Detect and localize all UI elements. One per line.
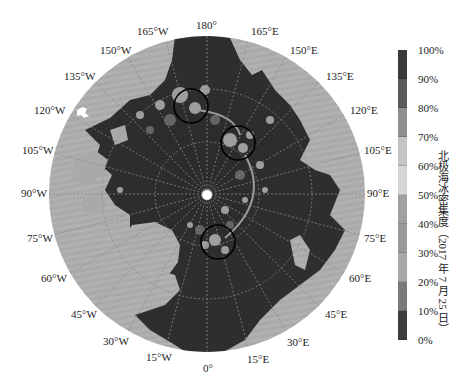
colorbar-segment	[398, 50, 407, 79]
colorbar-title: 北极海冰密集度（2017 年 7 月 25 日）	[436, 150, 450, 334]
colorbar-gradient	[398, 50, 407, 340]
longitude-label: 120°E	[350, 105, 378, 116]
longitude-label: 150°E	[290, 45, 318, 56]
colorbar-segment	[398, 253, 407, 282]
longitude-label: 45°W	[71, 309, 97, 320]
longitude-label: 180°	[196, 20, 217, 31]
colorbar-segment	[398, 137, 407, 166]
longitude-label: 105°W	[22, 145, 53, 156]
colorbar-segment	[398, 166, 407, 195]
colorbar-segment	[398, 224, 407, 253]
north-pole-marker	[202, 190, 212, 200]
longitude-label: 0°	[203, 363, 213, 374]
longitude-label: 105°E	[364, 145, 392, 156]
colorbar	[398, 50, 407, 340]
longitude-label: 90°W	[21, 188, 47, 199]
longitude-label: 165°E	[251, 26, 279, 37]
longitude-label: 60°E	[349, 273, 371, 284]
colorbar-segment	[398, 195, 407, 224]
longitude-label: 120°W	[34, 105, 65, 116]
longitude-label: 15°W	[146, 352, 172, 363]
colorbar-segment	[398, 79, 407, 108]
colorbar-segment	[398, 108, 407, 137]
longitude-label: 90°E	[367, 188, 389, 199]
longitude-label: 150°W	[100, 45, 131, 56]
colorbar-segment	[398, 282, 407, 311]
colorbar-tick-label: 100%	[418, 45, 444, 56]
colorbar-segment	[398, 311, 407, 340]
longitude-label: 135°W	[64, 71, 95, 82]
longitude-label: 75°W	[27, 233, 53, 244]
longitude-label: 135°E	[326, 71, 354, 82]
colorbar-tick-label: 90%	[418, 74, 438, 85]
longitude-label: 30°W	[103, 336, 129, 347]
arctic-sea-ice-map	[0, 0, 400, 388]
colorbar-tick-label: 0%	[418, 335, 433, 346]
longitude-label: 60°W	[41, 273, 67, 284]
longitude-label: 30°E	[287, 337, 309, 348]
colorbar-tick-label: 80%	[418, 103, 438, 114]
longitude-label: 15°E	[247, 354, 269, 365]
longitude-label: 75°E	[364, 233, 386, 244]
colorbar-tick-label: 70%	[418, 132, 438, 143]
longitude-label: 45°E	[325, 309, 347, 320]
longitude-label: 165°W	[137, 26, 168, 37]
